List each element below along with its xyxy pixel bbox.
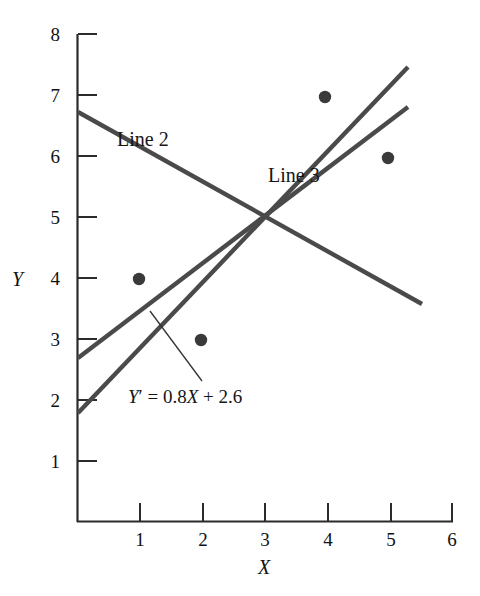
x-tick-label-4: 4 xyxy=(315,530,341,549)
y-tick-label-7: 7 xyxy=(34,86,60,105)
x-tick-label-5: 5 xyxy=(378,530,404,549)
equation-constant: 2.6 xyxy=(219,386,243,407)
y-tick-label-2: 2 xyxy=(34,391,60,410)
x-tick-label-1: 1 xyxy=(127,530,153,549)
x-tick-label-2: 2 xyxy=(190,530,216,549)
line-2-label: Line 2 xyxy=(117,128,169,151)
y-tick-label-1: 1 xyxy=(34,452,60,471)
scatter-plot-figure: 8 7 6 5 4 3 2 1 1 2 3 4 5 6 Y X Line 2 L… xyxy=(0,0,480,596)
y-axis-title: Y xyxy=(12,268,23,291)
x-tick-label-6: 6 xyxy=(439,530,465,549)
line-3 xyxy=(78,67,408,413)
regression-equation-label: Y′ = 0.8X + 2.6 xyxy=(128,386,242,408)
data-point xyxy=(382,152,394,164)
equation-plus: + xyxy=(198,386,218,407)
equation-equals: = xyxy=(143,386,163,407)
y-tick-label-4: 4 xyxy=(34,269,60,288)
y-tick-label-6: 6 xyxy=(34,147,60,166)
y-tick-label-5: 5 xyxy=(34,208,60,227)
equation-leader-line xyxy=(150,311,202,381)
y-tick-label-3: 3 xyxy=(34,330,60,349)
y-tick-label-8: 8 xyxy=(34,25,60,44)
equation-coefficient: 0.8 xyxy=(163,386,187,407)
x-axis-title: X xyxy=(258,556,270,579)
data-point xyxy=(195,334,207,346)
data-point xyxy=(319,91,331,103)
line-3-label: Line 3 xyxy=(268,164,320,187)
plot-canvas xyxy=(0,0,480,596)
x-tick-label-3: 3 xyxy=(252,530,278,549)
equation-y-symbol: Y xyxy=(128,386,139,407)
x-axis-ticks xyxy=(140,503,452,521)
data-point xyxy=(133,273,145,285)
equation-x-symbol: X xyxy=(187,386,199,407)
